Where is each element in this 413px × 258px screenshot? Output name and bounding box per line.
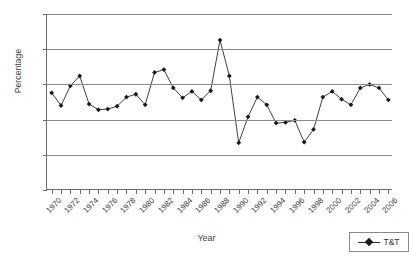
data-point-marker (349, 102, 354, 107)
data-point-marker (358, 86, 363, 91)
x-tick-label: 2000 (322, 196, 344, 218)
x-tick-mark (239, 190, 240, 194)
x-tick-mark (257, 190, 258, 194)
y-tick-mark (43, 84, 47, 85)
x-tick-label: 1978 (116, 196, 138, 218)
data-point-marker (96, 107, 101, 112)
x-tick-label: 2002 (340, 196, 362, 218)
x-tick-mark (248, 190, 249, 194)
x-tick-mark (379, 190, 380, 194)
x-tick-mark (136, 190, 137, 194)
x-tick-mark (80, 190, 81, 194)
x-tick-label: 1992 (247, 196, 269, 218)
x-tick-mark (108, 190, 109, 194)
data-point-marker (236, 140, 241, 145)
data-point-marker (152, 70, 157, 75)
gridline (47, 155, 392, 156)
x-tick-mark (314, 190, 315, 194)
x-tick-mark (201, 190, 202, 194)
gridline (47, 49, 392, 50)
x-tick-mark (388, 190, 389, 194)
data-point-marker (105, 107, 110, 112)
data-point-marker (87, 102, 92, 107)
y-tick-mark (43, 49, 47, 50)
data-point-marker (246, 114, 251, 119)
x-tick-label: 1970 (41, 196, 63, 218)
data-point-marker (283, 120, 288, 125)
gridline (47, 14, 392, 15)
x-tick-mark (342, 190, 343, 194)
series-line (52, 40, 389, 143)
x-tick-label: 2004 (359, 196, 381, 218)
gridline (47, 120, 392, 121)
x-tick-mark (145, 190, 146, 194)
x-tick-mark (229, 190, 230, 194)
data-point-marker (274, 121, 279, 126)
x-tick-mark (332, 190, 333, 194)
x-tick-label: 1988 (209, 196, 231, 218)
x-tick-label: 1996 (284, 196, 306, 218)
y-axis-title: Percentage (13, 26, 23, 116)
x-tick-label: 1984 (172, 196, 194, 218)
x-tick-label: 2006 (378, 196, 400, 218)
x-tick-mark (295, 190, 296, 194)
x-tick-mark (164, 190, 165, 194)
x-tick-mark (70, 190, 71, 194)
x-tick-label: 1998 (303, 196, 325, 218)
x-tick-label: 1982 (153, 196, 175, 218)
y-tick-mark (43, 190, 47, 191)
x-tick-label: 1976 (97, 196, 119, 218)
legend: T&T (349, 232, 409, 252)
x-tick-mark (173, 190, 174, 194)
x-tick-mark (211, 190, 212, 194)
x-tick-mark (117, 190, 118, 194)
gridline (47, 84, 392, 85)
data-point-marker (161, 67, 166, 72)
x-tick-mark (370, 190, 371, 194)
x-tick-mark (183, 190, 184, 194)
line-chart: Percentage 050100150200250 1970197219741… (0, 0, 413, 258)
x-tick-label: 1972 (60, 196, 82, 218)
x-tick-mark (360, 190, 361, 194)
x-tick-mark (192, 190, 193, 194)
legend-marker-icon (358, 238, 380, 246)
x-tick-label: 1994 (266, 196, 288, 218)
x-tick-mark (267, 190, 268, 194)
x-tick-mark (126, 190, 127, 194)
x-tick-mark (155, 190, 156, 194)
x-tick-mark (285, 190, 286, 194)
x-tick-mark (89, 190, 90, 194)
x-tick-mark (323, 190, 324, 194)
x-tick-mark (98, 190, 99, 194)
x-tick-mark (52, 190, 53, 194)
data-point-marker (218, 38, 223, 43)
y-tick-mark (43, 14, 47, 15)
x-tick-label: 1974 (79, 196, 101, 218)
x-tick-mark (220, 190, 221, 194)
legend-label: T&T (383, 237, 399, 247)
y-tick-mark (43, 155, 47, 156)
x-tick-mark (61, 190, 62, 194)
x-tick-mark (304, 190, 305, 194)
plot-area (46, 14, 392, 190)
x-tick-label: 1980 (135, 196, 157, 218)
series-layer (47, 14, 393, 190)
x-tick-mark (276, 190, 277, 194)
data-point-marker (227, 74, 232, 79)
x-tick-label: 1986 (191, 196, 213, 218)
x-tick-mark (351, 190, 352, 194)
x-tick-label: 1990 (228, 196, 250, 218)
y-tick-mark (43, 120, 47, 121)
data-point-marker (320, 95, 325, 100)
